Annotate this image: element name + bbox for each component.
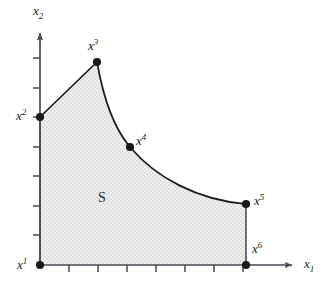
- point-label-x5-superscript: 5: [260, 192, 265, 202]
- point-x6: [242, 261, 250, 269]
- point-label-x1-superscript: 1: [23, 256, 28, 266]
- point-label-x6-superscript: 6: [258, 240, 263, 250]
- point-label-x6: x6: [252, 241, 262, 255]
- point-label-x3-superscript: 3: [94, 37, 99, 47]
- point-label-x2: x2: [16, 108, 26, 122]
- figure-root: x2 x1 x1 x2 x3 x4 x5 x6 S: [0, 0, 331, 287]
- point-label-x4-superscript: 4: [142, 132, 147, 142]
- x2-axis-label: x2: [33, 4, 43, 21]
- x1-axis-ticks: [69, 265, 243, 272]
- x2-axis-label-subscript: 2: [39, 11, 44, 21]
- x2-axis-ticks: [33, 58, 40, 235]
- point-label-x5: x5: [254, 193, 264, 207]
- region-label-s: S: [98, 191, 106, 205]
- point-x2: [36, 113, 44, 121]
- point-label-x3: x3: [88, 38, 98, 52]
- x1-axis-label-subscript: 1: [310, 264, 315, 274]
- point-x4: [126, 143, 134, 151]
- point-label-x1: x1: [17, 257, 27, 271]
- point-x3: [93, 58, 101, 66]
- point-label-x4: x4: [136, 133, 146, 147]
- point-x1: [36, 261, 44, 269]
- x1-axis-label: x1: [304, 257, 314, 274]
- region-fill: [40, 62, 246, 265]
- point-x5: [242, 200, 250, 208]
- point-label-x2-superscript: 2: [22, 107, 27, 117]
- region-diagram-svg: [0, 0, 331, 287]
